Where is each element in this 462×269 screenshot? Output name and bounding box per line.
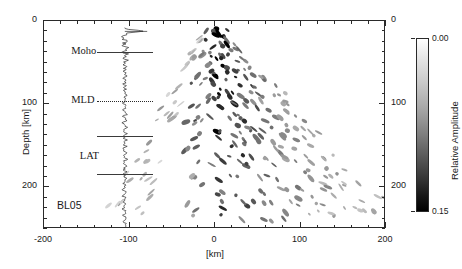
x-minor-tick-top bbox=[317, 20, 318, 24]
annotation-label-moho: Moho bbox=[71, 45, 96, 56]
y-minor-tick bbox=[43, 51, 47, 52]
x-major-tick bbox=[385, 222, 386, 228]
y-axis-title: Depth [km] bbox=[20, 109, 31, 155]
figure-canvas: -200-100010020001002000100200 MohoMLDLAT… bbox=[0, 0, 462, 269]
y-major-tick-right bbox=[379, 103, 385, 104]
y-minor-tick-right bbox=[382, 41, 386, 42]
x-minor-tick-top bbox=[265, 20, 266, 24]
y-major-tick-right bbox=[379, 20, 385, 21]
x-tick-label: 0 bbox=[197, 235, 231, 244]
y-tick-label-left: 200 bbox=[3, 181, 37, 190]
x-minor-tick bbox=[231, 225, 232, 229]
x-minor-tick-top bbox=[180, 20, 181, 24]
x-minor-tick-top bbox=[111, 20, 112, 24]
colorbar bbox=[416, 38, 429, 212]
x-minor-tick-top bbox=[248, 20, 249, 24]
colorbar-tick-min bbox=[411, 38, 415, 39]
y-major-tick bbox=[43, 20, 49, 21]
y-major-tick-right bbox=[379, 186, 385, 187]
marker-line-mld bbox=[97, 101, 153, 102]
y-minor-tick-right bbox=[382, 155, 386, 156]
y-tick-label-left: 100 bbox=[3, 98, 37, 107]
x-minor-tick bbox=[265, 225, 266, 229]
y-minor-tick bbox=[43, 218, 47, 219]
colorbar-tick-max bbox=[411, 211, 415, 212]
y-minor-tick bbox=[43, 197, 47, 198]
y-minor-tick-right bbox=[382, 197, 386, 198]
x-minor-tick-top bbox=[146, 20, 147, 24]
receiver-function-trace bbox=[122, 28, 144, 227]
station-label: BL05 bbox=[57, 199, 82, 211]
x-minor-tick-top bbox=[334, 20, 335, 24]
marker-line-lat bbox=[97, 136, 153, 137]
y-minor-tick-right bbox=[382, 82, 386, 83]
annotation-label-mld: MLD bbox=[71, 94, 94, 105]
x-minor-tick bbox=[146, 225, 147, 229]
x-minor-tick-top bbox=[351, 20, 352, 24]
y-minor-tick bbox=[43, 134, 47, 135]
x-axis-title: [km] bbox=[206, 248, 224, 259]
y-minor-tick-right bbox=[382, 93, 386, 94]
scatterer-group bbox=[180, 25, 384, 224]
y-minor-tick bbox=[43, 207, 47, 208]
y-minor-tick-right bbox=[382, 228, 386, 229]
x-minor-tick-top bbox=[231, 20, 232, 24]
x-major-tick bbox=[129, 222, 130, 228]
y-minor-tick bbox=[43, 82, 47, 83]
y-minor-tick bbox=[43, 176, 47, 177]
y-tick-label-left: 0 bbox=[3, 15, 37, 24]
x-tick-label: -200 bbox=[26, 235, 60, 244]
y-minor-tick-right bbox=[382, 51, 386, 52]
y-minor-tick bbox=[43, 72, 47, 73]
x-minor-tick bbox=[248, 225, 249, 229]
y-minor-tick bbox=[43, 114, 47, 115]
y-minor-tick-right bbox=[382, 218, 386, 219]
x-tick-label: 100 bbox=[283, 235, 317, 244]
x-major-tick bbox=[300, 222, 301, 228]
y-tick-label-right: 0 bbox=[391, 15, 425, 24]
x-major-tick-top bbox=[300, 20, 301, 26]
x-minor-tick-top bbox=[368, 20, 369, 24]
y-minor-tick bbox=[43, 228, 47, 229]
colorbar-min-label: 0.00 bbox=[432, 33, 449, 43]
y-minor-tick bbox=[43, 145, 47, 146]
y-minor-tick-right bbox=[382, 166, 386, 167]
x-major-tick-top bbox=[385, 20, 386, 26]
annotation-label-lat: LAT bbox=[80, 150, 99, 161]
x-minor-tick-top bbox=[163, 20, 164, 24]
x-minor-tick bbox=[197, 225, 198, 229]
x-minor-tick bbox=[94, 225, 95, 229]
y-minor-tick-right bbox=[382, 72, 386, 73]
y-major-tick bbox=[43, 103, 49, 104]
left-limb-streaks bbox=[104, 35, 204, 216]
x-minor-tick-top bbox=[282, 20, 283, 24]
x-minor-tick bbox=[180, 225, 181, 229]
marker-line-lat-2 bbox=[97, 174, 153, 175]
y-minor-tick-right bbox=[382, 124, 386, 125]
x-minor-tick-top bbox=[77, 20, 78, 24]
y-minor-tick-right bbox=[382, 134, 386, 135]
x-minor-tick-top bbox=[60, 20, 61, 24]
y-minor-tick-right bbox=[382, 145, 386, 146]
x-major-tick-top bbox=[129, 20, 130, 26]
colorbar-title: Relative Amplitude bbox=[449, 101, 460, 180]
y-minor-tick-right bbox=[382, 207, 386, 208]
x-major-tick bbox=[214, 222, 215, 228]
y-minor-tick bbox=[43, 41, 47, 42]
x-minor-tick bbox=[317, 225, 318, 229]
x-tick-label: 200 bbox=[368, 235, 402, 244]
y-minor-tick-right bbox=[382, 114, 386, 115]
x-minor-tick-top bbox=[94, 20, 95, 24]
marker-line-moho bbox=[97, 52, 153, 53]
y-minor-tick bbox=[43, 124, 47, 125]
x-tick-label: -100 bbox=[112, 235, 146, 244]
y-minor-tick bbox=[43, 30, 47, 31]
y-minor-tick bbox=[43, 93, 47, 94]
y-minor-tick-right bbox=[382, 30, 386, 31]
y-minor-tick bbox=[43, 155, 47, 156]
x-minor-tick bbox=[282, 225, 283, 229]
y-minor-tick bbox=[43, 62, 47, 63]
y-major-tick bbox=[43, 186, 49, 187]
colorbar-max-label: 0.15 bbox=[432, 206, 449, 216]
x-minor-tick bbox=[163, 225, 164, 229]
